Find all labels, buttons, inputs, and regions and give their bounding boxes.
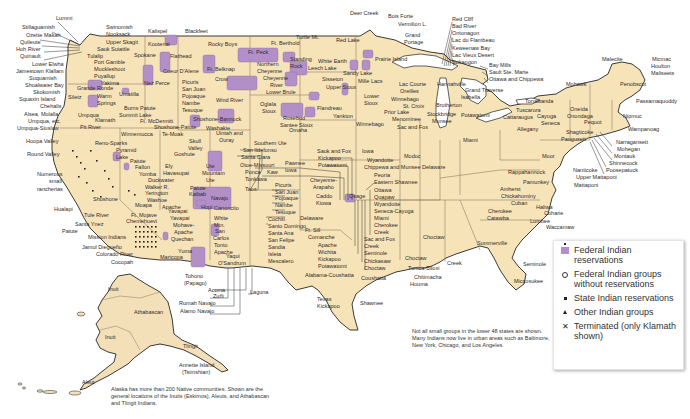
group-marker <box>147 241 149 243</box>
place-label: Numerous <box>37 171 62 178</box>
place-label: Pamunkey <box>523 179 549 186</box>
place-label: Rappahannock <box>508 169 545 176</box>
place-label: Tesuque <box>275 209 296 216</box>
place-label: Southern Ute <box>254 140 287 147</box>
group-marker <box>147 231 149 233</box>
place-label: Spokane <box>134 52 156 59</box>
place-label: Fallon <box>135 164 150 171</box>
place-label: (Papago) <box>184 280 207 287</box>
place-label: Seminole <box>364 250 387 257</box>
place-label: Cheyenne <box>257 68 282 75</box>
place-label: Cherokee <box>488 208 512 215</box>
lower48-note: Not all small groups in the lower 48 sta… <box>412 328 552 349</box>
place-label: Nez Perce <box>144 80 170 87</box>
place-label: Nambe <box>182 100 200 107</box>
place-label: Wyandotte <box>374 201 400 208</box>
group-marker <box>96 160 98 162</box>
group-marker <box>128 190 130 192</box>
place-label: Colorado River <box>96 251 133 258</box>
place-label: Kootenai <box>148 41 170 48</box>
place-label: Seneca <box>541 120 560 127</box>
group-marker <box>72 150 74 152</box>
place-label: Mountain <box>202 170 225 177</box>
place-label: Mission Indians <box>88 234 126 241</box>
place-label: Creek <box>447 260 462 267</box>
place-label: Miami <box>463 137 478 144</box>
place-label: Grand Traverse <box>465 87 503 94</box>
reservation-patch <box>309 92 319 100</box>
group-marker <box>139 246 141 248</box>
reservation-patch <box>305 107 315 117</box>
place-label: Ft. Berthold <box>271 40 300 47</box>
group-marker <box>139 231 141 233</box>
group-marker <box>92 190 94 192</box>
group-marker <box>134 194 136 196</box>
place-label: Sac and Fox <box>364 236 395 243</box>
group-marker <box>151 236 153 238</box>
place-label: Skull <box>189 138 201 145</box>
group-marker <box>143 236 145 238</box>
place-label: Oneida <box>570 106 588 113</box>
place-label: Kickapoo <box>318 256 341 263</box>
reservation-patch <box>227 76 257 90</box>
place-label: Waccamaw <box>546 224 574 231</box>
place-label: Taos <box>245 186 257 193</box>
place-label: Nambe <box>275 202 293 209</box>
place-label: Flathead <box>170 53 191 60</box>
place-label: Warm <box>97 93 112 100</box>
place-label: Sault Ste. Marie <box>489 69 528 76</box>
place-label: Shagticoke <box>566 129 593 136</box>
place-label: Shawnee <box>360 300 383 307</box>
place-label: Hualapi <box>54 206 73 213</box>
group-marker <box>147 236 149 238</box>
place-label: Squaxin Island <box>19 96 55 103</box>
group-marker <box>135 226 137 228</box>
place-label: Penobscot <box>620 81 646 88</box>
place-label: Picuris <box>182 79 199 86</box>
group-marker <box>155 241 157 243</box>
place-label: Yerington <box>145 190 168 197</box>
place-label: Deer Creek <box>350 10 378 17</box>
place-label: Ute <box>206 177 215 184</box>
place-label: Creek <box>374 229 389 236</box>
place-label: Oglala <box>260 101 276 108</box>
place-label: Chemehuevi <box>126 218 157 225</box>
place-label: Maricopa <box>160 254 183 261</box>
place-label: small <box>49 178 62 185</box>
legend-item-federal-reservations: Federal Indian reservations <box>560 245 679 265</box>
place-label: Amherst <box>500 186 521 193</box>
place-label: Goshute <box>174 151 195 158</box>
place-label: Port Gamble <box>94 59 125 66</box>
place-label: Shoshone-Paiute <box>154 124 196 131</box>
place-label: Pit River <box>80 124 101 131</box>
place-label: Umatilla <box>119 91 139 98</box>
legend-label: Federal Indian groups without reservatio… <box>574 269 679 289</box>
place-label: Swinomish <box>106 24 133 31</box>
place-label: Upper Skagit <box>106 39 138 46</box>
place-label: Stillaguamish <box>22 24 55 31</box>
place-label: Pojoaque <box>275 195 298 202</box>
place-label: Upper Mattaponi <box>576 174 617 181</box>
place-label: Rumah Navajo <box>179 300 216 307</box>
place-label: Nipmuc <box>623 113 642 120</box>
group-marker <box>112 186 114 188</box>
place-label: Winnebago <box>391 96 419 103</box>
group-marker <box>139 226 141 228</box>
place-label: Lake <box>116 154 128 161</box>
place-label: Navajo <box>211 195 228 202</box>
place-label: Mattaponi <box>574 182 598 189</box>
place-label: Crow <box>215 76 228 83</box>
place-label: Lower Brule <box>266 89 295 96</box>
place-label: Munsee <box>432 118 452 125</box>
place-label: Sandia <box>268 244 285 251</box>
place-label: Chehalis <box>40 103 61 110</box>
place-label: Prairie Island <box>375 56 407 63</box>
place-label: Duckwater <box>148 177 174 184</box>
place-label: Comanche <box>308 234 335 241</box>
reservation-patch <box>363 50 373 58</box>
legend-label: Terminated (only Klamath shown) <box>574 321 679 341</box>
place-label: Modoc <box>404 153 421 160</box>
place-label: Omaha <box>289 127 307 134</box>
place-label: Ft. Sill <box>305 227 320 234</box>
place-label: Mohegan <box>617 146 640 153</box>
